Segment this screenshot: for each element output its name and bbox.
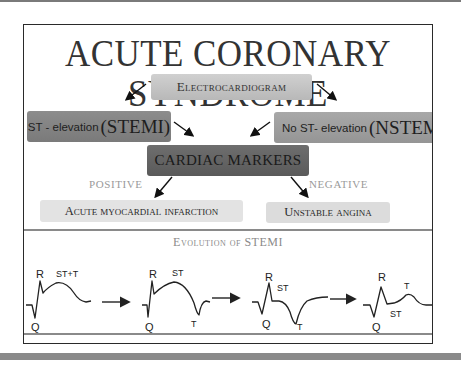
stage-4-q-label: Q xyxy=(372,321,381,333)
bottom-bar xyxy=(0,353,461,360)
stage-3-st-label: ST xyxy=(277,283,289,293)
stage-1-r-label: R xyxy=(36,268,44,280)
stage-2-r-label: R xyxy=(149,268,157,280)
top-bar xyxy=(0,0,461,2)
stage-2-st-label: ST xyxy=(172,268,184,278)
stage-4-t-label: T xyxy=(404,281,410,291)
diagram-frame: ACUTE CORONARY SYNDROME Electrocardiogra… xyxy=(23,24,433,344)
stage-3-q-label: Q xyxy=(262,318,271,330)
stage-3-r-label: R xyxy=(265,271,273,283)
stage-2-q-label: Q xyxy=(145,321,154,333)
stage-1-stt-label: ST+T xyxy=(56,269,79,279)
ecg-stage-2 xyxy=(142,281,210,317)
stage-2-t-label: T xyxy=(191,319,197,329)
stage-3-t-label: T xyxy=(297,322,303,332)
ecg-stage-1 xyxy=(26,281,91,318)
stemi-evolution-waveforms: R ST+T Q R ST Q T R ST Q T R T ST Q xyxy=(24,25,433,344)
stage-4-st-label: ST xyxy=(390,309,402,319)
stage-4-r-label: R xyxy=(378,271,386,283)
stage-1-q-label: Q xyxy=(31,321,40,333)
